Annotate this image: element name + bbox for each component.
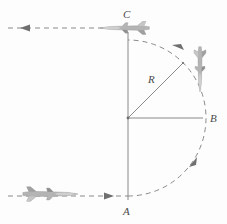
radius-r-line <box>128 63 183 118</box>
aircraft-at-b <box>194 47 206 92</box>
label-point-b: B <box>210 113 217 124</box>
arc-arrow-upper-icon <box>172 44 184 50</box>
label-point-c: C <box>123 9 130 20</box>
aircraft-entry <box>23 187 78 201</box>
loop-diagram-svg <box>0 0 227 224</box>
entry-arrow-icon <box>104 193 114 200</box>
radii-group <box>127 32 203 200</box>
aircraft-at-c <box>100 22 149 35</box>
radius-r-endpoint <box>182 62 184 64</box>
label-point-a: A <box>123 206 130 217</box>
exit-arrow-icon <box>20 25 30 32</box>
label-radius-r: R <box>148 74 155 85</box>
arc-arrow-lower-icon <box>189 157 197 167</box>
center-point <box>127 117 130 120</box>
figure-root: A B C R <box>0 0 227 224</box>
